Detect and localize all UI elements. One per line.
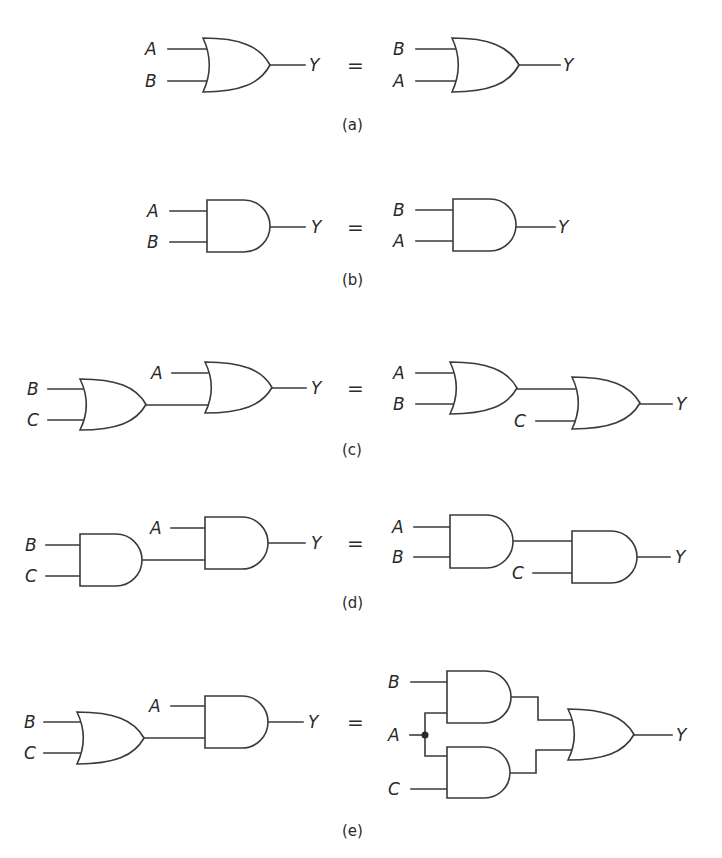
and-gate-icon [205, 517, 268, 569]
signal-label-c: C [24, 743, 36, 763]
panel-e-left-circuit: BCAY [24, 696, 320, 764]
panel-d-left-circuit: BCAY [25, 517, 323, 586]
panel-a-left-circuit: ABY [144, 38, 321, 92]
and-gate-icon [205, 696, 268, 748]
signal-label-b: B [147, 232, 159, 252]
signal-label-b: B [393, 394, 405, 414]
or-gate-icon [205, 362, 272, 413]
signal-label-y: Y [311, 378, 323, 398]
signal-label-y: Y [676, 725, 688, 745]
signal-label-c: C [25, 566, 37, 586]
equals-sign: = [347, 376, 364, 400]
equals-sign: = [347, 531, 364, 555]
or-gate-icon [80, 379, 146, 430]
signal-label-y: Y [311, 533, 323, 553]
equals-sign: = [347, 710, 364, 734]
equals-sign: = [347, 53, 364, 77]
panel-d-right-circuit: ABCY [391, 515, 687, 583]
signal-label-y: Y [311, 217, 323, 237]
and-gate-icon [453, 199, 516, 251]
and-gate-icon [450, 515, 513, 568]
or-gate-icon [572, 377, 640, 429]
signal-label-y: Y [563, 55, 575, 75]
signal-label-a: A [392, 231, 405, 251]
and-gate-icon [572, 531, 637, 583]
panel-caption: (b) [342, 271, 363, 289]
signal-label-a: A [150, 363, 163, 383]
signal-label-c: C [512, 563, 524, 583]
panel-e-right-wire [511, 697, 572, 720]
signal-label-y: Y [309, 55, 321, 75]
signal-label-y: Y [675, 547, 687, 567]
or-gate-icon [77, 712, 144, 764]
signal-label-b: B [145, 71, 157, 91]
signal-label-y: Y [308, 712, 320, 732]
or-gate-icon [203, 38, 270, 92]
signal-label-a: A [392, 71, 405, 91]
signal-label-c: C [514, 411, 526, 431]
and-gate-icon [447, 671, 511, 723]
signal-label-a: A [144, 39, 157, 59]
panel-caption: (c) [342, 441, 362, 459]
panel-b: ABY=BAY(b) [146, 199, 570, 289]
and-gate-icon [80, 534, 142, 586]
panel-b-right-circuit: BAY [392, 199, 570, 251]
panel-e-right-circuit: BACY [387, 671, 688, 799]
junction-dot [422, 732, 429, 739]
signal-label-b: B [25, 535, 37, 555]
equals-sign: = [347, 215, 364, 239]
panel-a: ABY=BAY(a) [144, 38, 575, 134]
and-gate-icon [447, 747, 510, 798]
signal-label-a: A [392, 363, 405, 383]
panel-d: BCAY=ABCY(d) [25, 515, 687, 612]
panel-c: BCAY=ABCY(c) [27, 362, 688, 459]
signal-label-y: Y [558, 217, 570, 237]
panel-c-right-circuit: ABCY [392, 362, 688, 431]
panel-caption: (d) [342, 594, 363, 612]
panel-e: BCAY=BACY(e) [24, 671, 688, 840]
panel-caption: (e) [342, 822, 363, 840]
signal-label-b: B [393, 39, 405, 59]
signal-label-c: C [27, 410, 39, 430]
and-gate-icon [207, 200, 270, 252]
or-gate-icon [568, 709, 634, 760]
signal-label-y: Y [676, 394, 688, 414]
signal-label-b: B [27, 379, 39, 399]
signal-label-a: A [148, 696, 161, 716]
signal-label-b: B [393, 200, 405, 220]
panel-c-left-circuit: BCAY [27, 362, 323, 430]
panel-caption: (a) [342, 116, 363, 134]
signal-label-b: B [24, 712, 36, 732]
logic-gate-diagram: ABY=BAY(a)ABY=BAY(b)BCAY=ABCY(c)BCAY=ABC… [0, 0, 722, 858]
signal-label-a: A [391, 517, 404, 537]
or-gate-icon [450, 362, 517, 414]
or-gate-icon [452, 38, 519, 92]
signal-label-a: A [149, 518, 162, 538]
signal-label-b: B [392, 547, 404, 567]
panel-a-right-circuit: BAY [392, 38, 575, 92]
signal-label-a: A [387, 725, 400, 745]
signal-label-c: C [388, 779, 400, 799]
signal-label-a: A [146, 201, 159, 221]
panel-e-right-wire [510, 750, 572, 773]
panel-b-left-circuit: ABY [146, 200, 323, 252]
signal-label-b: B [388, 672, 400, 692]
